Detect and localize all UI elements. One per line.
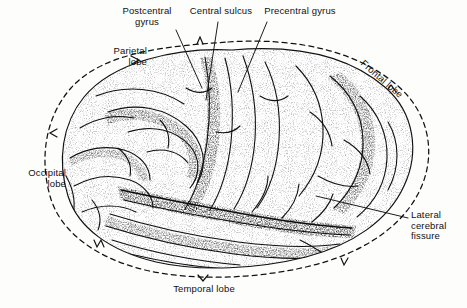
tick-occipital-parietal (50, 129, 57, 137)
label-postcentral-gyrus: Postcentral gyrus (112, 6, 182, 27)
label-temporal-lobe: Temporal lobe (158, 284, 250, 295)
tick-temporal-frontal (341, 258, 348, 265)
label-occipital-lobe: Occipital lobe (8, 168, 66, 189)
label-parietal-lobe: Parietal lobe (95, 46, 147, 67)
brain-anatomy-figure: Postcentral gyrus Central sulcus Precent… (0, 0, 467, 308)
tick-temporal (198, 275, 208, 281)
tick-occipital-temporal (94, 240, 104, 247)
brain-illustration (0, 0, 467, 308)
tick-parietal-frontal (197, 37, 203, 44)
label-precentral-gyrus: Precentral gyrus (258, 6, 342, 17)
label-central-sulcus: Central sulcus (185, 6, 257, 17)
label-lateral-cerebral-fissure: Lateral cerebral fissure (411, 210, 465, 242)
